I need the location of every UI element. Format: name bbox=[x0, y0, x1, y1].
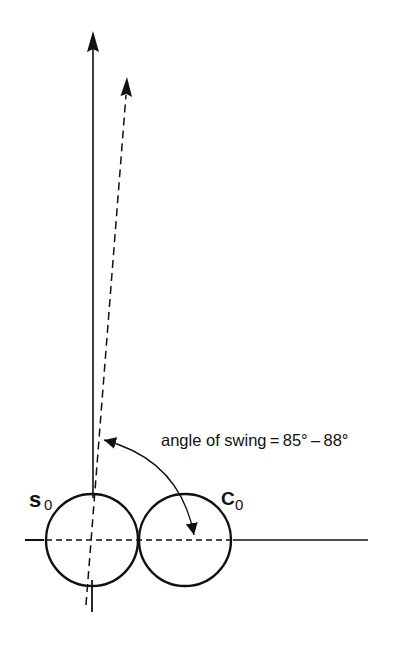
swing-angle-diagram: angle of swing = 85° – 88° s 0 C 0 bbox=[0, 0, 417, 652]
label-s0: s 0 bbox=[29, 487, 52, 513]
arrowhead-icon bbox=[87, 31, 99, 52]
label-c0: C 0 bbox=[221, 488, 243, 513]
svg-text:0: 0 bbox=[235, 496, 243, 513]
svg-text:s: s bbox=[29, 487, 41, 512]
angle-of-swing-label: angle of swing = 85° – 88° bbox=[161, 431, 348, 449]
arrowhead-icon bbox=[121, 77, 133, 97]
svg-text:0: 0 bbox=[44, 496, 52, 513]
svg-text:C: C bbox=[221, 488, 235, 509]
swing-arc-arrow bbox=[104, 440, 194, 535]
